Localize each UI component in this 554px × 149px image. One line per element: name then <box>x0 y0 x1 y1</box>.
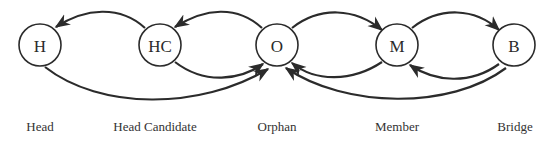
edge-b-to-m <box>410 64 499 79</box>
caption-head-candidate: Head Candidate <box>113 119 196 135</box>
node-member: M <box>376 24 418 66</box>
node-label-h: H <box>34 37 46 56</box>
node-head-candidate: HC <box>139 24 181 66</box>
node-label-b: B <box>508 37 519 56</box>
edge-m-to-b <box>412 12 499 30</box>
node-orphan: O <box>256 24 298 66</box>
edge-hc-to-o <box>175 62 263 78</box>
caption-orphan: Orphan <box>258 119 297 135</box>
node-label-hc: HC <box>148 37 172 56</box>
edge-m-to-o <box>292 62 382 77</box>
edge-h-to-o <box>45 67 268 100</box>
node-head: H <box>19 24 61 66</box>
node-label-m: M <box>389 37 404 56</box>
caption-head: Head <box>26 119 53 135</box>
caption-member: Member <box>375 119 419 135</box>
edge-b-to-o <box>286 68 506 99</box>
edge-hc-to-h <box>56 12 145 28</box>
edge-o-to-m <box>292 12 382 30</box>
nodes: H HC O M B <box>19 24 535 66</box>
edge-o-to-hc <box>175 12 262 28</box>
caption-bridge: Bridge <box>497 119 532 135</box>
node-label-o: O <box>271 37 283 56</box>
node-bridge: B <box>493 24 535 66</box>
